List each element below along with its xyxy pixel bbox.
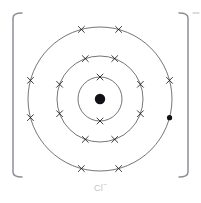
electron-shell3-5-cross-strokes — [78, 166, 84, 172]
bohr-model-svg — [0, 0, 201, 203]
electron-shell3-6-cross-strokes — [116, 166, 122, 172]
electron-shell2-2-cross-strokes — [82, 56, 88, 62]
electron-shell3-3-cross-strokes — [27, 77, 33, 83]
electron-shell3-7-cross-icon — [167, 77, 173, 83]
electron-shell3-1-cross-icon — [116, 26, 122, 32]
electron-shell2-6-cross-icon — [112, 136, 118, 142]
electron-shell2-5-cross-strokes — [82, 136, 88, 142]
electron-shell3-2-cross-icon — [78, 26, 84, 32]
electron-shell3-1-cross-strokes — [116, 26, 122, 32]
electron-shell2-7-cross-strokes — [137, 111, 143, 117]
electron-shell3-5-cross-icon — [78, 166, 84, 172]
ion-label: Cl− — [0, 179, 201, 194]
ion-label-symbol: Cl — [94, 183, 103, 193]
electron-shell2-7-cross-icon — [137, 111, 143, 117]
gained-electron-shell3-8-dot-icon — [167, 115, 172, 120]
ion-diagram-figure: Cl− — [0, 0, 201, 203]
electron-shell2-5-cross-icon — [82, 136, 88, 142]
electron-shell2-8-cross-icon — [137, 81, 143, 87]
electron-shell3-3-cross-icon — [27, 77, 33, 83]
nucleus — [95, 94, 105, 104]
right-bracket — [179, 13, 188, 177]
nucleus-core-icon — [95, 94, 105, 104]
electron-shell2-3-cross-strokes — [57, 81, 63, 87]
electron-shell2-6-cross-strokes — [112, 136, 118, 142]
left-bracket — [13, 13, 22, 177]
ion-label-charge: − — [103, 181, 107, 188]
electron-shell2-1-cross-strokes — [112, 56, 118, 62]
electron-shell2-4-cross-strokes — [57, 111, 63, 117]
electron-shell2-1-cross-icon — [112, 56, 118, 62]
electron-shell3-4-cross-strokes — [27, 115, 33, 121]
electron-shell3-4-cross-icon — [27, 115, 33, 121]
electron-shell2-8-cross-strokes — [137, 81, 143, 87]
electron-shell2-4-cross-icon — [57, 111, 63, 117]
electron-shell2-2-cross-icon — [82, 56, 88, 62]
electron-shell3-2-cross-strokes — [78, 26, 84, 32]
electron-shell3-6-cross-icon — [116, 166, 122, 172]
electron-shell3-7-cross-strokes — [167, 77, 173, 83]
electron-shell2-3-cross-icon — [57, 81, 63, 87]
